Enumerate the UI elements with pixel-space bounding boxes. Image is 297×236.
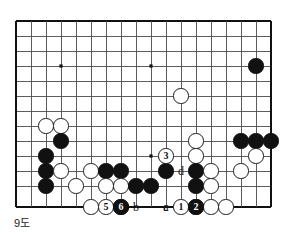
white-stone (233, 163, 248, 178)
star-point (149, 154, 152, 157)
black-stone (143, 178, 158, 193)
white-stone (38, 118, 53, 133)
black-stone (38, 178, 53, 193)
black-stone (188, 178, 203, 193)
figure-caption: 9도 (14, 214, 30, 230)
black-stone (263, 133, 278, 148)
white-stone (218, 199, 233, 214)
move-number-3: 3 (158, 151, 173, 161)
white-stone (83, 163, 98, 178)
white-stone (68, 178, 83, 193)
white-stone (113, 178, 128, 193)
move-number-5: 5 (98, 202, 113, 212)
move-number-2: 2 (188, 202, 203, 212)
black-stone (53, 133, 68, 148)
point-label-c: c (160, 200, 172, 215)
black-stone (233, 133, 248, 148)
white-stone (53, 118, 68, 133)
black-stone (248, 58, 263, 73)
star-point (59, 64, 62, 67)
go-diagram-figure: dbac 354162 9도 (0, 0, 297, 236)
white-stone (203, 163, 218, 178)
board-grid (16, 21, 271, 207)
white-stone (203, 199, 218, 214)
white-stone (248, 148, 263, 163)
point-label-b: b (130, 200, 142, 215)
white-stone (98, 178, 113, 193)
move-number-1: 1 (173, 202, 188, 212)
black-stone (128, 178, 143, 193)
black-stone (248, 133, 263, 148)
white-stone (188, 148, 203, 163)
white-stone (83, 199, 98, 214)
black-stone (38, 163, 53, 178)
white-stone (188, 133, 203, 148)
white-stone (53, 163, 68, 178)
point-label-d: d (175, 164, 187, 179)
white-stone (203, 178, 218, 193)
star-point (149, 64, 152, 67)
white-stone (173, 88, 188, 103)
black-stone (188, 163, 203, 178)
black-stone (98, 163, 113, 178)
black-stone (38, 148, 53, 163)
black-stone (158, 163, 173, 178)
black-stone (113, 163, 128, 178)
move-number-6: 6 (113, 202, 128, 212)
